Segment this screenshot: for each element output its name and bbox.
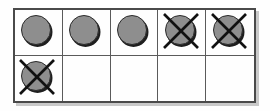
diagram-canvas xyxy=(0,0,270,111)
grid-cell-r1c5[interactable] xyxy=(206,10,254,56)
counter-grid xyxy=(13,8,256,103)
grid-cell-r1c4[interactable] xyxy=(158,10,206,56)
counter-token xyxy=(66,12,106,52)
token-r1c4 xyxy=(158,10,205,55)
counter-token-crossed xyxy=(18,58,58,98)
counter-disc-icon xyxy=(69,15,99,45)
grid-cell-r2c4[interactable] xyxy=(158,56,206,102)
grid-cell-r2c2[interactable] xyxy=(63,56,111,102)
counter-token xyxy=(18,12,58,52)
grid-cell-r1c3[interactable] xyxy=(111,10,159,56)
token-r1c5 xyxy=(206,10,254,55)
token-r2c1 xyxy=(15,56,62,102)
counter-token-crossed xyxy=(210,12,250,52)
counter-disc-icon xyxy=(21,15,51,45)
counter-token xyxy=(114,12,154,52)
token-r1c1 xyxy=(15,10,62,55)
grid-cell-r2c3[interactable] xyxy=(111,56,159,102)
counter-disc-icon xyxy=(117,15,147,45)
counter-disc-icon xyxy=(165,15,195,45)
counter-token-crossed xyxy=(162,12,202,52)
grid-cell-r2c1[interactable] xyxy=(15,56,63,102)
grid-cell-r1c2[interactable] xyxy=(63,10,111,56)
grid-cell-r2c5[interactable] xyxy=(206,56,254,102)
counter-disc-icon xyxy=(213,15,243,45)
grid-cell-r1c1[interactable] xyxy=(15,10,63,56)
counter-disc-icon xyxy=(21,61,51,91)
token-r1c2 xyxy=(63,10,110,55)
token-r1c3 xyxy=(111,10,158,55)
